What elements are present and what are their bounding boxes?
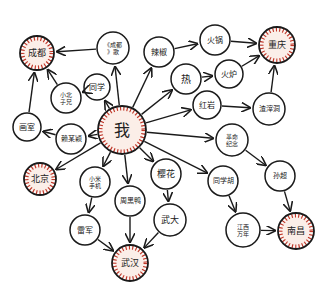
arrow-wo-to-lajiao: [133, 68, 152, 107]
node-label: 同学: [89, 82, 105, 92]
arrow-huoguo-to-chongqing: [231, 41, 256, 43]
node-label: 红岩: [199, 100, 215, 110]
arrow-wuda-to-wuhan: [144, 232, 158, 247]
node-label: 成都: [28, 47, 46, 58]
node-nanchang: 南昌: [278, 213, 314, 249]
arrow-wo-to-re: [142, 90, 172, 114]
arrow-yinghua-to-wuda: [167, 190, 168, 201]
node-zhouheiya: 周黑鸭: [115, 186, 145, 216]
diagram-canvas: 我成都《成都》歌同学小北子兄画室赖某颖北京小米手机雷军周黑鸭武汉樱花武大辣椒火锅…: [0, 0, 329, 300]
node-label: 重庆: [268, 39, 286, 50]
node-re: 热: [171, 64, 201, 94]
node-sunchao: 孙超: [265, 161, 295, 191]
edge-layer: [29, 41, 290, 250]
arrow-wo-to-beijing: [56, 143, 100, 169]
node-jiangxi: 江西万年: [226, 213, 260, 247]
node-tongxuehu: 同学胡: [208, 166, 238, 196]
node-label: 火锅: [207, 35, 223, 45]
arrow-sunchao-to-nanchang: [284, 191, 290, 210]
node-huolu: 火炉: [215, 60, 243, 88]
node-laimouying: 赖某颖: [56, 124, 86, 154]
node-label: 樱花: [157, 168, 175, 179]
node-tongxue: 同学: [84, 74, 110, 100]
node-label: 我: [114, 121, 130, 140]
arrow-wo-to-geming: [147, 132, 213, 138]
node-label: 辣椒: [151, 47, 167, 57]
node-label: 孙超: [273, 171, 287, 180]
node-label: 赖某颖: [61, 134, 82, 143]
node-geming: 革命纪念: [216, 124, 248, 156]
arrow-leijun-to-wuhan: [98, 239, 113, 250]
node-label: 子兄: [60, 98, 72, 106]
node-huoguo: 火锅: [200, 25, 230, 55]
arrow-xiaomi-to-leijun: [89, 198, 92, 213]
node-label: 火炉: [221, 69, 237, 79]
node-huashi: 画室: [13, 113, 41, 141]
arrow-tongxuehu-to-jiangxi: [229, 196, 235, 212]
arrow-hongyan-to-zhazidong: [222, 106, 250, 108]
node-wuhan: 武汉: [112, 245, 148, 281]
node-layer: 我成都《成都》歌同学小北子兄画室赖某颖北京小米手机雷军周黑鸭武汉樱花武大辣椒火锅…: [13, 25, 314, 281]
arrow-lajiao-to-huoguo: [175, 44, 198, 49]
node-leijun: 雷军: [70, 215, 100, 245]
node-label: 北京: [31, 173, 49, 184]
arrow-wo-to-yinghua: [140, 148, 154, 162]
arrow-huashi-to-chengdu: [29, 73, 34, 112]
node-xiaobei: 小北子兄: [51, 83, 81, 113]
node-label: 》歌: [107, 48, 119, 56]
node-chengdu: 成都: [20, 36, 54, 70]
arrow-re-to-huolu: [202, 76, 212, 77]
arrow-wo-to-laimouying: [89, 134, 98, 136]
arrow-zhazidong-to-chongqing: [271, 66, 274, 92]
node-beijing: 北京: [24, 163, 56, 195]
node-label: 同学胡: [213, 176, 234, 185]
node-label: 手机: [89, 182, 101, 190]
node-label: 热: [181, 73, 191, 85]
arrow-wo-to-tongxuehu: [144, 141, 207, 173]
node-wo: 我: [98, 106, 146, 154]
arrow-xiaobei-to-chengdu: [48, 70, 57, 85]
arrow-huolu-to-chongqing: [242, 56, 259, 66]
node-label: 南昌: [287, 225, 305, 236]
node-zhazidong: 渣滓洞: [253, 93, 285, 125]
node-label: 画室: [19, 122, 35, 132]
node-label: 周黑鸭: [120, 196, 141, 205]
node-yinghua: 樱花: [151, 159, 181, 189]
node-xiaomi: 小米手机: [80, 167, 110, 197]
node-label: 渣滓洞: [259, 104, 280, 113]
node-label: 万年: [237, 230, 249, 238]
node-chongqing: 重庆: [259, 27, 295, 63]
node-lajiao: 辣椒: [144, 37, 174, 67]
node-wuda: 武大: [154, 204, 186, 236]
arrow-wo-to-hongyan: [146, 110, 191, 123]
arrow-wo-to-zhouheiya: [125, 155, 128, 183]
node-label: 雷军: [77, 226, 93, 235]
arrow-wo-to-xiaomi: [103, 152, 110, 166]
node-hongyan: 红岩: [193, 91, 221, 119]
arrow-laimouying-to-huashi: [43, 131, 55, 134]
node-label: 武汉: [121, 257, 139, 268]
node-label: 纪念: [226, 140, 238, 147]
arrow-wo-to-chengdu_song: [115, 67, 119, 105]
arrow-wo-to-tongxue: [105, 101, 109, 109]
arrow-chengdu_song-to-chengdu: [57, 49, 96, 52]
node-chengdu_song: 《成都》歌: [97, 32, 129, 64]
mind-map-diagram: 我成都《成都》歌同学小北子兄画室赖某颖北京小米手机雷军周黑鸭武汉樱花武大辣椒火锅…: [0, 0, 329, 300]
node-label: 武大: [161, 214, 179, 225]
arrow-geming-to-sunchao: [246, 150, 266, 165]
